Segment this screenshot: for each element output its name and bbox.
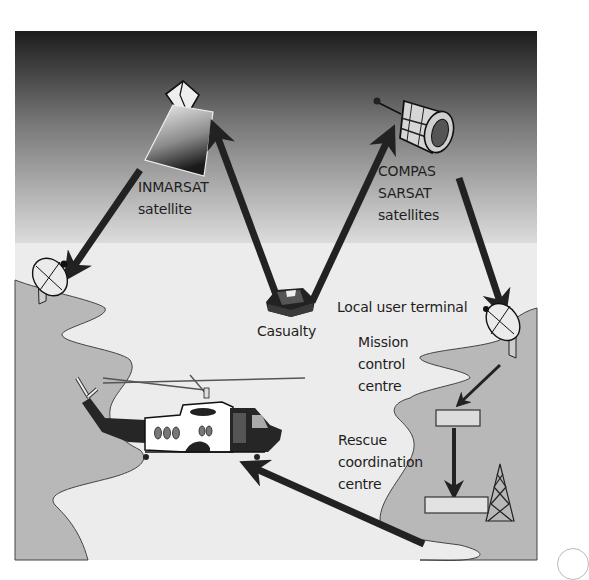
label-local-user-terminal: Local user terminal [337, 296, 467, 318]
label-line: Local user terminal [337, 296, 467, 318]
label-line: satellites [378, 204, 439, 226]
label-line: centre [358, 375, 409, 397]
label-line: SARSAT [378, 182, 439, 204]
sky [15, 31, 537, 243]
label-line: Rescue [338, 429, 423, 451]
label-line: control [358, 353, 409, 375]
mission-control-centre-icon [436, 410, 480, 426]
page-corner-circle [557, 548, 589, 580]
label-line: COMPAS [378, 160, 439, 182]
label-compas-sarsat-satellites: COMPAS SARSAT satellites [378, 160, 439, 226]
label-rescue-coordination-centre: Rescue coordination centre [338, 429, 423, 495]
label-line: coordination [338, 451, 423, 473]
label-line: satellite [138, 198, 209, 220]
rescue-coordination-centre-icon [425, 497, 488, 513]
label-casualty: Casualty [257, 320, 316, 342]
label-inmarsat-satellite: INMARSAT satellite [138, 176, 209, 220]
label-line: INMARSAT [138, 176, 209, 198]
label-line: Mission [358, 331, 409, 353]
label-mission-control-centre: Mission control centre [358, 331, 409, 397]
label-line: centre [338, 473, 423, 495]
label-line: Casualty [257, 320, 316, 342]
